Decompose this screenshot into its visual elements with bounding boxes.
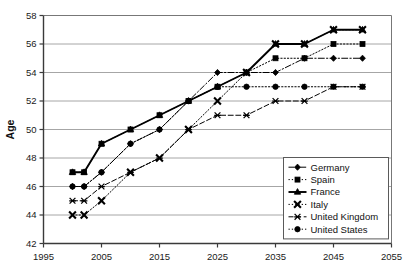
marker-united-states-2015: [157, 127, 162, 132]
y-tick-label-48: 48: [26, 152, 37, 163]
legend-label: France: [311, 186, 341, 197]
y-tick-label-44: 44: [26, 209, 37, 220]
marker-spain-2050: [360, 42, 365, 47]
x-tick-label-2035: 2035: [265, 251, 286, 262]
x-tick-label-2015: 2015: [149, 251, 170, 262]
marker-united-states-2000: [70, 184, 75, 189]
marker-spain-2035: [273, 56, 278, 61]
x-tick-label-2045: 2045: [323, 251, 344, 262]
legend-label: United States: [311, 224, 368, 235]
marker-united-states-2045: [331, 84, 336, 89]
legend-label: United Kingdom: [311, 211, 379, 222]
chart-legend[interactable]: GermanySpainFranceItalyUnited KingdomUni…: [284, 158, 389, 239]
y-tick-label-46: 46: [26, 181, 37, 192]
marker-united-states-2025: [215, 84, 220, 89]
legend-marker-circle: [295, 227, 300, 232]
marker-spain-2045: [331, 42, 336, 47]
marker-united-states-2005: [99, 170, 104, 175]
x-tick-label-2005: 2005: [91, 251, 112, 262]
y-tick-label-42: 42: [26, 238, 37, 249]
legend-label: Spain: [311, 174, 335, 185]
legend-label: Italy: [311, 199, 329, 210]
marker-united-states-2020: [186, 98, 191, 103]
age-projection-line-chart: 424446485052545658 199520052015202520352…: [0, 0, 412, 273]
marker-united-states-2002: [81, 184, 86, 189]
x-tick-label-2025: 2025: [207, 251, 228, 262]
marker-united-states-2050: [360, 84, 365, 89]
y-tick-label-54: 54: [26, 67, 37, 78]
marker-united-states-2040: [302, 84, 307, 89]
x-tick-label-2055: 2055: [381, 251, 402, 262]
y-axis-title: Age: [4, 119, 16, 139]
y-tick-label-56: 56: [26, 38, 37, 49]
marker-united-states-2030: [244, 84, 249, 89]
marker-united-states-2010: [128, 141, 133, 146]
chart-canvas: 424446485052545658 199520052015202520352…: [0, 0, 412, 273]
marker-spain-2040: [302, 56, 307, 61]
y-tick-label-58: 58: [26, 10, 37, 21]
y-tick-label-52: 52: [26, 95, 37, 106]
y-axis-title-text: Age: [4, 119, 16, 139]
legend-marker-square: [295, 177, 300, 182]
marker-united-states-2035: [273, 84, 278, 89]
x-tick-label-1995: 1995: [33, 251, 54, 262]
legend-label: Germany: [311, 162, 350, 173]
y-tick-label-50: 50: [26, 124, 37, 135]
